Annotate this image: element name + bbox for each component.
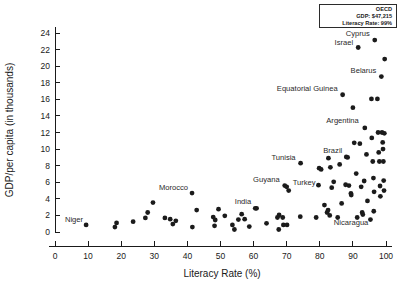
data-point (362, 179, 367, 184)
y-tick-label: 10 (41, 144, 51, 154)
data-point (173, 218, 178, 223)
data-point (331, 179, 336, 184)
data-point (369, 135, 374, 140)
x-tick-label: 50 (216, 251, 226, 261)
data-point (326, 156, 331, 161)
data-point (247, 224, 252, 229)
data-point-label: Equatorial Guinea (277, 84, 339, 93)
data-point (212, 223, 217, 228)
y-tick-label: 24 (41, 28, 51, 38)
data-point (382, 188, 387, 193)
data-point-label: Morocco (159, 183, 188, 192)
data-point (351, 105, 356, 110)
data-point (347, 183, 352, 188)
data-point (276, 227, 281, 232)
data-point (375, 97, 380, 102)
data-point-label: India (235, 197, 252, 206)
plot-svg: 0246810121416182022240102030405060708090… (0, 0, 402, 283)
oecd-legend-box: OECD GDP: $47,215 Literacy Rate: 99% (319, 4, 396, 27)
x-tick-label: 0 (53, 251, 58, 261)
data-point (380, 140, 385, 145)
data-point (362, 126, 367, 131)
x-tick-label: 60 (249, 251, 259, 261)
data-point (84, 223, 89, 228)
data-point (264, 221, 269, 226)
data-point (364, 152, 369, 157)
y-tick-label: 4 (45, 194, 50, 204)
data-point (298, 161, 303, 166)
data-point-label: Turkey (293, 178, 316, 187)
data-point (381, 159, 386, 164)
data-point (339, 201, 344, 206)
data-point (382, 131, 387, 136)
data-point (378, 184, 383, 189)
data-point (230, 223, 235, 228)
x-tick-label: 90 (348, 251, 358, 261)
data-point (194, 208, 199, 213)
y-tick-label: 14 (41, 111, 51, 121)
data-point (349, 193, 354, 198)
y-tick-label: 20 (41, 61, 51, 71)
data-point (145, 210, 150, 215)
data-point (316, 183, 321, 188)
data-point (236, 217, 241, 222)
data-point (382, 57, 387, 62)
data-point (359, 184, 364, 189)
y-tick-label: 6 (45, 177, 50, 187)
data-point (368, 217, 373, 222)
y-tick-label: 8 (45, 161, 50, 171)
data-point (327, 213, 332, 218)
x-tick-label: 10 (83, 251, 93, 261)
data-point-label: Cyprus (346, 29, 370, 38)
data-point-label: Israel (335, 38, 354, 47)
y-tick-label: 18 (41, 78, 51, 88)
x-tick-label: 70 (282, 251, 292, 261)
data-point (372, 38, 377, 43)
scatter-chart: 0246810121416182022240102030405060708090… (0, 0, 402, 283)
data-point-label: Niger (65, 215, 84, 224)
data-point (372, 189, 377, 194)
y-axis-title: GDP/per capita (in thousands) (4, 63, 15, 198)
y-tick-label: 2 (45, 210, 50, 220)
data-point (381, 147, 386, 152)
data-point (242, 217, 247, 222)
x-axis-title: Literacy Rate (%) (183, 268, 260, 279)
data-point (328, 165, 333, 170)
data-point-label: Belarus (351, 66, 377, 75)
data-point (340, 92, 345, 97)
data-point (232, 227, 237, 232)
data-point (356, 45, 361, 50)
data-point (352, 140, 357, 145)
data-point (326, 208, 331, 213)
data-point (222, 213, 227, 218)
data-point (314, 215, 319, 220)
data-point (376, 150, 381, 155)
data-point (344, 155, 349, 160)
x-tick-label: 20 (116, 251, 126, 261)
data-point (360, 212, 365, 217)
data-point (329, 185, 334, 190)
y-tick-label: 12 (41, 128, 51, 138)
data-point (322, 203, 327, 208)
data-point (357, 141, 362, 146)
data-point (378, 194, 383, 199)
legend-title: OECD (376, 6, 392, 12)
data-point (190, 225, 195, 230)
x-tick-label: 80 (315, 251, 325, 261)
data-point (354, 171, 359, 176)
data-point (337, 162, 342, 167)
data-point (216, 207, 221, 212)
x-tick-label: 100 (379, 251, 393, 261)
data-point-label: Nicaragua (334, 218, 369, 227)
point-labels: NigerMoroccoGuyanaTurkeyTunisiaNicaragua… (65, 29, 377, 227)
data-point (371, 209, 376, 214)
data-point-label: Guyana (253, 175, 280, 184)
data-point (365, 199, 370, 204)
x-tick-label: 30 (150, 251, 160, 261)
x-tick-label: 40 (183, 251, 193, 261)
data-point (286, 188, 291, 193)
data-point (190, 191, 195, 196)
data-point (280, 215, 285, 220)
y-tick-label: 16 (41, 94, 51, 104)
data-point-label: Argentina (326, 116, 359, 125)
